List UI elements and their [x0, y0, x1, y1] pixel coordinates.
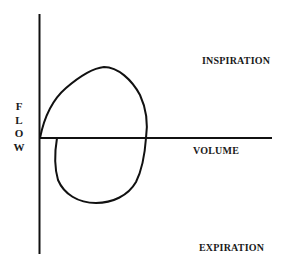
flow-axis-label: F L O W — [12, 100, 26, 154]
diagram-graphics — [0, 0, 289, 271]
inspiration-label: INSPIRATION — [202, 55, 270, 66]
volume-axis-label: VOLUME — [193, 145, 239, 156]
flow-letter-f: F — [16, 100, 23, 114]
flow-letter-o: O — [15, 127, 24, 141]
expiration-curve — [55, 138, 146, 203]
flow-letter-l: L — [15, 114, 22, 128]
inspiration-curve — [40, 67, 147, 138]
flow-letter-w: W — [14, 141, 25, 155]
expiration-label: EXPIRATION — [199, 242, 264, 253]
flow-volume-diagram: F L O W INSPIRATION VOLUME EXPIRATION — [0, 0, 289, 271]
